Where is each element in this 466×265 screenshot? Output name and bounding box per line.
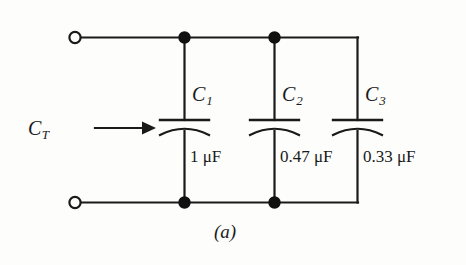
ct-subscript: T [42, 127, 49, 142]
bottom-left-terminal-icon [69, 197, 80, 208]
c1-name-label: C1 [192, 84, 213, 107]
figure-caption: (a) [214, 222, 236, 241]
right-arrow-icon [142, 122, 156, 135]
c2-name-label: C2 [282, 84, 303, 107]
c2-subscript: 2 [296, 93, 303, 108]
junction-dot-bottom-c2 [268, 196, 280, 208]
junction-dot-top-c2 [268, 31, 280, 43]
junction-dot-top-c1 [178, 31, 190, 43]
c1-symbol: C [192, 83, 206, 105]
c2-value-label: 0.47 μF [280, 148, 333, 165]
c3-name-label: C3 [365, 84, 386, 107]
c2-symbol: C [282, 83, 296, 105]
junction-dot-bottom-c1 [178, 196, 190, 208]
total-capacitance-label: CT [28, 118, 49, 141]
c1-value-label: 1 μF [190, 148, 221, 165]
circuit-figure: CT C1 1 μF C2 0.47 μF C3 0.33 μF (a) [0, 0, 466, 265]
top-left-terminal-icon [69, 32, 80, 43]
c3-subscript: 3 [379, 93, 386, 108]
c3-value-label: 0.33 μF [363, 148, 416, 165]
c3-symbol: C [365, 83, 379, 105]
ct-symbol: C [28, 117, 41, 139]
c1-subscript: 1 [206, 93, 213, 108]
